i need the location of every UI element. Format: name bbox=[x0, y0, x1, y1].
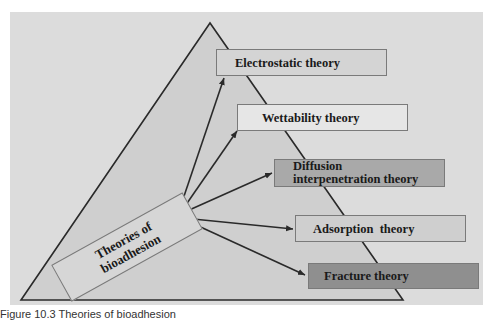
diffusion-theory-label-line2: interpenetration theory bbox=[293, 173, 418, 186]
electrostatic-theory-box: Electrostatic theory bbox=[216, 49, 387, 76]
electrostatic-theory-label: Electrostatic theory bbox=[235, 56, 340, 70]
fracture-theory-label: Fracture theory bbox=[324, 269, 409, 283]
wettability-theory-label: Wettability theory bbox=[262, 111, 360, 125]
figure-caption: Figure 10.3 Theories of bioadhesion bbox=[0, 308, 176, 320]
wettability-theory-box: Wettability theory bbox=[237, 104, 408, 131]
adsorption-theory-box: Adsorption theory bbox=[295, 215, 466, 242]
adsorption-theory-label: Adsorption theory bbox=[313, 222, 414, 236]
diffusion-theory-box: Diffusion interpenetration theory bbox=[274, 159, 445, 187]
fracture-theory-box: Fracture theory bbox=[308, 263, 479, 289]
